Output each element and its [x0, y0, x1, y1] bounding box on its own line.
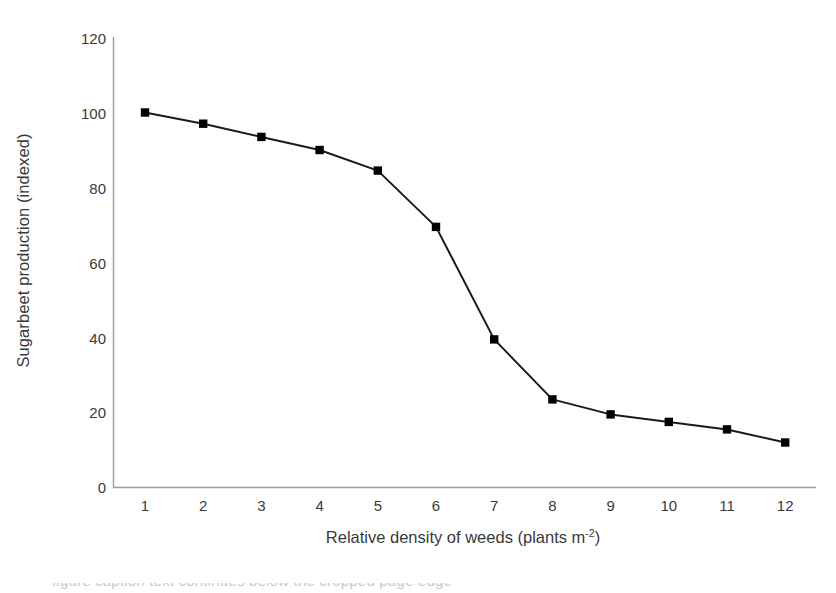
x-axis-title-superscript: -2: [585, 527, 594, 539]
x-tick-5: 5: [374, 497, 382, 514]
x-axis-title-tail: ): [595, 528, 601, 546]
x-tick-11: 11: [719, 497, 735, 514]
chart-figure: Sugarbeet production (indexed) 120 100 8…: [0, 0, 836, 593]
x-tick-3: 3: [257, 497, 265, 514]
clipped-caption-sliver: figure caption text continues below the …: [52, 583, 788, 592]
x-tick-10: 10: [660, 497, 677, 514]
x-tick-8: 8: [548, 497, 556, 514]
x-tick-4: 4: [315, 497, 323, 514]
clipped-caption-text: figure caption text continues below the …: [52, 583, 788, 589]
x-tick-6: 6: [432, 497, 440, 514]
x-tick-1: 1: [141, 497, 149, 514]
x-axis-tick-labels: 123456789101112: [0, 0, 836, 593]
x-tick-9: 9: [606, 497, 614, 514]
x-tick-7: 7: [490, 497, 498, 514]
x-tick-12: 12: [777, 497, 794, 514]
x-tick-2: 2: [199, 497, 207, 514]
x-axis-title-text: Relative density of weeds (plants m: [326, 528, 586, 546]
x-axis-title: Relative density of weeds (plants m-2): [113, 528, 813, 547]
